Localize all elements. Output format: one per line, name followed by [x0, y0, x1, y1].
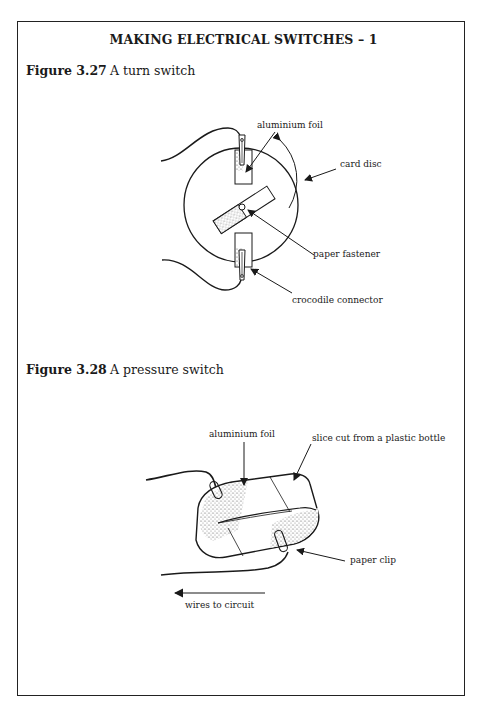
pressure-switch-diagram — [146, 442, 345, 593]
crocodile-connector-top — [239, 135, 245, 165]
label-paper-fastener: paper fastener — [313, 249, 380, 259]
label-aluminium-foil: aluminium foil — [209, 429, 275, 439]
leader-card-disc — [305, 169, 336, 180]
label-paper-clip: paper clip — [350, 555, 396, 565]
label-card-disc: card disc — [340, 159, 382, 169]
leader-crocodile-connector — [251, 269, 292, 293]
wire-bottom — [162, 260, 241, 290]
label-bottle-slice: slice cut from a plastic bottle — [312, 433, 445, 443]
label-wires-to-circuit: wires to circuit — [185, 600, 254, 610]
turn-switch-diagram — [0, 0, 487, 719]
paper-fastener-head — [239, 204, 245, 210]
label-crocodile-connector: crocodile connector — [292, 295, 383, 305]
label-aluminium-foil: aluminium foil — [257, 120, 323, 130]
crocodile-connector-bottom — [239, 250, 245, 280]
